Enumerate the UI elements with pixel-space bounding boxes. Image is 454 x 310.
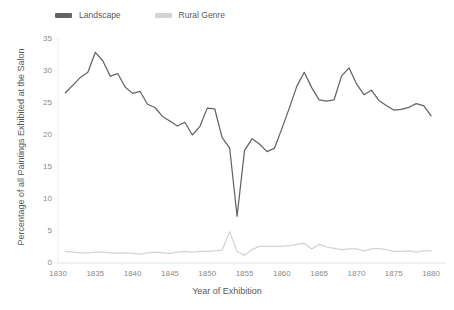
x-tick-label: 1860 bbox=[262, 270, 302, 278]
y-tick-label: 0 bbox=[28, 259, 52, 267]
x-tick-label: 1835 bbox=[75, 270, 115, 278]
x-tick-label: 1830 bbox=[38, 270, 78, 278]
x-tick-label: 1875 bbox=[374, 270, 414, 278]
y-tick-label: 35 bbox=[28, 35, 52, 43]
series-line-landscape bbox=[65, 52, 431, 216]
series-layer bbox=[65, 52, 431, 255]
chart-svg bbox=[0, 0, 454, 310]
y-tick-label: 25 bbox=[28, 99, 52, 107]
y-tick-label: 15 bbox=[28, 163, 52, 171]
x-tick-label: 1845 bbox=[150, 270, 190, 278]
chart-container: Landscape Rural Genre 05101520253035 183… bbox=[0, 0, 454, 310]
y-tick-label: 20 bbox=[28, 131, 52, 139]
y-axis-label: Percentage of all Paintings Exhibited at… bbox=[16, 42, 26, 252]
y-tick-label: 10 bbox=[28, 195, 52, 203]
plot-area bbox=[0, 0, 454, 310]
x-tick-label: 1870 bbox=[336, 270, 376, 278]
x-tick-label: 1840 bbox=[113, 270, 153, 278]
x-tick-label: 1855 bbox=[225, 270, 265, 278]
y-tick-label: 5 bbox=[28, 227, 52, 235]
axis-layer bbox=[55, 39, 446, 263]
x-tick-label: 1880 bbox=[411, 270, 451, 278]
x-axis-label: Year of Exhibition bbox=[0, 286, 454, 296]
series-line-rural-genre bbox=[65, 232, 431, 256]
x-tick-label: 1865 bbox=[299, 270, 339, 278]
y-tick-label: 30 bbox=[28, 67, 52, 75]
x-tick-label: 1850 bbox=[187, 270, 227, 278]
